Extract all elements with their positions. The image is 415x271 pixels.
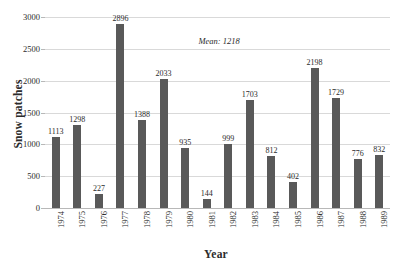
bar[interactable]: 1298	[73, 125, 81, 208]
y-tick-mark	[41, 144, 45, 145]
bar-value-label: 999	[222, 134, 234, 143]
gridline	[45, 17, 390, 18]
bar-value-label: 2198	[307, 58, 323, 67]
y-tick-mark	[41, 113, 45, 114]
mean-annotation: Mean: 1218	[199, 36, 240, 46]
bar[interactable]: 776	[354, 159, 362, 208]
bar-value-label: 935	[179, 138, 191, 147]
bar-value-label: 832	[373, 145, 385, 154]
bar[interactable]: 1388	[138, 120, 146, 208]
y-tick-label: 1000	[23, 139, 40, 149]
bar[interactable]: 227	[95, 194, 103, 208]
bar[interactable]: 999	[224, 144, 232, 208]
y-tick-label: 500	[27, 171, 40, 181]
bar[interactable]: 402	[289, 182, 297, 208]
bar[interactable]: 1729	[332, 98, 340, 208]
bar-value-label: 812	[265, 146, 277, 155]
bar-value-label: 1729	[328, 88, 344, 97]
bar-value-label: 144	[201, 189, 213, 198]
x-tick-label: 1975	[77, 211, 87, 243]
y-tick-mark	[41, 208, 45, 209]
x-tick-label: 1987	[336, 211, 346, 243]
x-axis-title: Year	[40, 248, 392, 260]
y-tick-mark	[41, 176, 45, 177]
bar[interactable]: 144	[203, 199, 211, 208]
y-tick-mark	[41, 49, 45, 50]
x-tick-label: 1978	[142, 211, 152, 243]
y-tick-label: 2500	[23, 44, 40, 54]
bar-value-label: 227	[93, 184, 105, 193]
bar[interactable]: 832	[375, 155, 383, 208]
x-tick-label: 1981	[207, 211, 217, 243]
plot-area: 0500100015002000250030001113197412981975…	[45, 17, 390, 208]
x-tick-label: 1983	[250, 211, 260, 243]
bar[interactable]: 935	[181, 148, 189, 208]
y-tick-label: 1500	[23, 108, 40, 118]
bar-value-label: 402	[287, 172, 299, 181]
gridline	[45, 81, 390, 82]
x-tick-label: 1977	[120, 211, 130, 243]
x-axis-line	[45, 208, 390, 209]
y-tick-label: 2000	[23, 76, 40, 86]
x-tick-label: 1985	[293, 211, 303, 243]
bar-value-label: 2033	[156, 69, 172, 78]
bar[interactable]: 2033	[160, 79, 168, 208]
bar-value-label: 2896	[112, 14, 128, 23]
bar[interactable]: 1113	[52, 137, 60, 208]
x-tick-label: 1984	[271, 211, 281, 243]
x-tick-label: 1982	[228, 211, 238, 243]
bar[interactable]: 1703	[246, 100, 254, 208]
x-tick-label: 1979	[164, 211, 174, 243]
x-tick-label: 1986	[315, 211, 325, 243]
bar-value-label: 1298	[69, 115, 85, 124]
gridline	[45, 49, 390, 50]
bar[interactable]: 812	[267, 156, 275, 208]
bar-value-label: 1388	[134, 110, 150, 119]
x-tick-label: 1988	[358, 211, 368, 243]
x-tick-label: 1980	[185, 211, 195, 243]
y-tick-label: 0	[36, 203, 40, 213]
y-tick-mark	[41, 81, 45, 82]
y-tick-mark	[41, 17, 45, 18]
bar-value-label: 1113	[48, 127, 63, 136]
x-tick-label: 1989	[379, 211, 389, 243]
bar-value-label: 776	[352, 149, 364, 158]
bar-value-label: 1703	[242, 90, 258, 99]
bar-chart-figure: Snow patches Year 0500100015002000250030…	[0, 0, 415, 271]
x-tick-label: 1974	[56, 211, 66, 243]
bar[interactable]: 2896	[116, 24, 124, 208]
bar[interactable]: 2198	[311, 68, 319, 208]
y-tick-label: 3000	[23, 12, 40, 22]
x-tick-label: 1976	[99, 211, 109, 243]
